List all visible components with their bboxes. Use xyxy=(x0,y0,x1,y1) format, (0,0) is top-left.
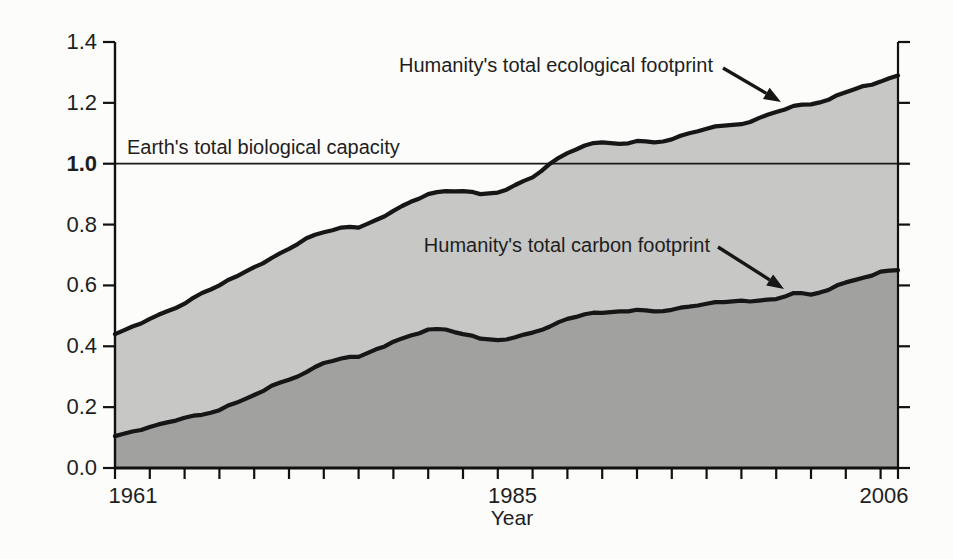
y-tick-label-0.2: 0.2 xyxy=(27,394,97,420)
biocapacity-label: Earth's total biological capacity xyxy=(127,135,400,159)
ecological-footprint-chart: 0.00.20.40.60.81.01.21.4 196119852006 Ea… xyxy=(0,0,953,559)
ecological-arrow-head xyxy=(763,88,781,102)
carbon-footprint-label: Humanity's total carbon footprint xyxy=(310,233,710,257)
y-tick-label-1.0: 1.0 xyxy=(27,151,97,177)
y-tick-label-1.2: 1.2 xyxy=(27,90,97,116)
x-axis-title: Year xyxy=(467,506,557,530)
y-tick-label-0.4: 0.4 xyxy=(27,333,97,359)
ecological-footprint-label: Humanity's total ecological footprint xyxy=(313,53,713,77)
y-tick-label-1.4: 1.4 xyxy=(27,29,97,55)
y-tick-label-0.6: 0.6 xyxy=(27,272,97,298)
chart-canvas xyxy=(0,0,953,559)
ecological-arrow-line xyxy=(723,68,766,93)
y-tick-label-0.0: 0.0 xyxy=(27,455,97,481)
y-tick-label-0.8: 0.8 xyxy=(27,212,97,238)
x-tick-label-2006: 2006 xyxy=(839,483,929,509)
x-tick-label-1961: 1961 xyxy=(88,483,178,509)
